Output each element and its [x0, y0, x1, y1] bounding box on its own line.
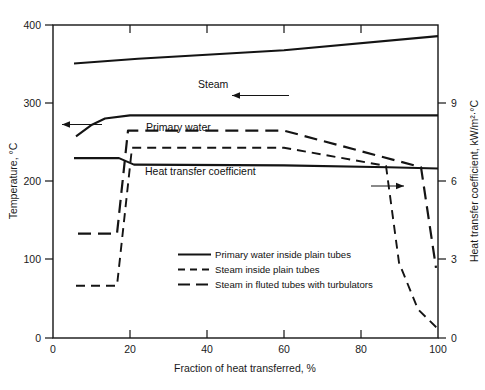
- ytick-label-right-0: 0: [451, 332, 457, 344]
- y-axis-left-title: Temperature, °C: [7, 142, 19, 219]
- figure-background: [0, 0, 485, 390]
- ytick-label-left-100: 100: [23, 253, 41, 265]
- annotation-steam-label: Steam: [198, 78, 229, 90]
- ytick-label-left-0: 0: [35, 332, 41, 344]
- chart-svg: 0 20 40 60 80 100 0 100 200 300 400 0 3 …: [0, 0, 485, 390]
- annotation-primary-water-label: Primary water: [146, 121, 211, 133]
- ytick-label-right-9: 9: [451, 97, 457, 109]
- xtick-label-100: 100: [429, 343, 447, 355]
- xtick-label-40: 40: [201, 343, 213, 355]
- xtick-label-0: 0: [50, 343, 56, 355]
- x-axis-title: Fraction of heat transferred, %: [174, 362, 316, 374]
- ytick-label-left-300: 300: [23, 97, 41, 109]
- xtick-label-80: 80: [355, 343, 367, 355]
- ytick-label-left-400: 400: [23, 19, 41, 31]
- y-axis-right-title: Heat transfer coefficient, kW/m²·°C: [468, 100, 480, 263]
- legend-label-1: Steam inside plain tubes: [215, 264, 320, 275]
- xtick-label-60: 60: [278, 343, 290, 355]
- ytick-label-right-3: 3: [451, 253, 457, 265]
- legend-label-2: Steam in fluted tubes with turbulators: [215, 279, 373, 290]
- ytick-label-left-200: 200: [23, 175, 41, 187]
- xtick-label-20: 20: [124, 343, 136, 355]
- legend-label-0: Primary water inside plain tubes: [215, 249, 351, 260]
- annotation-htc-label: Heat transfer coefficient: [145, 165, 256, 177]
- figure-container: 0 20 40 60 80 100 0 100 200 300 400 0 3 …: [0, 0, 485, 390]
- ytick-label-right-6: 6: [451, 175, 457, 187]
